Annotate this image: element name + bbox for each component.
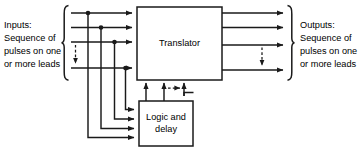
block-diagram-figure: Inputs: Sequence of pulses on one or mor… bbox=[0, 0, 359, 161]
junction-dot-input-3 bbox=[112, 40, 117, 45]
junction-dot-input-1 bbox=[86, 11, 91, 16]
junction-dot-input-2 bbox=[99, 25, 104, 30]
translator-block-label: Translator bbox=[159, 38, 200, 48]
junction-dot-input-4 bbox=[123, 66, 128, 71]
inputs-label-line3: pulses on one bbox=[4, 46, 61, 56]
outputs-label-line1: Outputs: bbox=[300, 20, 335, 30]
output-brace bbox=[288, 6, 295, 81]
input-brace bbox=[62, 6, 69, 81]
inputs-label-line1: Inputs: bbox=[4, 20, 32, 30]
inputs-label-line4: or more leads bbox=[4, 59, 61, 69]
feedback-arrow-3-routing bbox=[184, 93, 194, 97]
outputs-label-line4: or more leads bbox=[300, 59, 357, 69]
outputs-label-line2: Sequence of bbox=[300, 33, 352, 43]
outputs-label-line3: pulses on one bbox=[300, 46, 357, 56]
input-tap-3-to-logic bbox=[115, 42, 135, 119]
inputs-label-line2: Sequence of bbox=[4, 33, 56, 43]
input-tap-4-to-logic bbox=[126, 68, 135, 110]
logic-delay-label-line1: Logic and bbox=[146, 112, 186, 122]
logic-delay-label-line2: delay bbox=[155, 124, 177, 134]
diagram-canvas: Inputs: Sequence of pulses on one or mor… bbox=[0, 0, 359, 161]
